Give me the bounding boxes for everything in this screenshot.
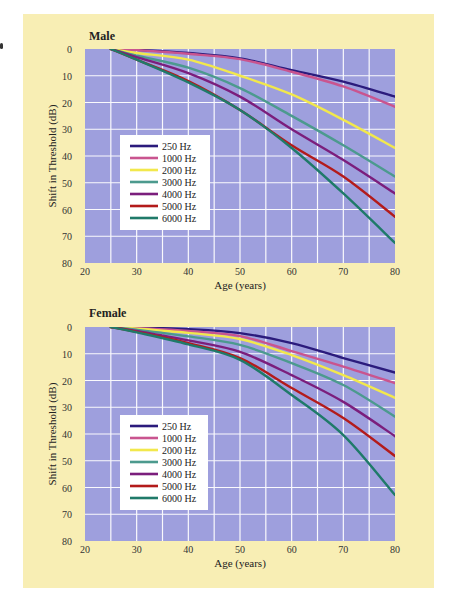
y-tick-label: 60 bbox=[62, 483, 72, 494]
x-tick-label: 80 bbox=[390, 266, 400, 277]
y-tick-label: 20 bbox=[62, 376, 72, 387]
y-tick-label: 10 bbox=[62, 349, 72, 360]
x-tick-label: 50 bbox=[235, 266, 245, 277]
x-tick-label: 20 bbox=[80, 544, 90, 555]
y-tick-label: 30 bbox=[62, 124, 72, 135]
legend-label: 4000 Hz bbox=[162, 469, 197, 480]
legend-label: 2000 Hz bbox=[162, 165, 197, 176]
legend: 250 Hz1000 Hz2000 Hz3000 Hz4000 Hz5000 H… bbox=[120, 135, 210, 230]
legend-label: 5000 Hz bbox=[162, 481, 197, 492]
y-tick-label: 50 bbox=[62, 456, 72, 467]
legend-label: 1000 Hz bbox=[162, 433, 197, 444]
legend-label: 250 Hz bbox=[162, 141, 192, 152]
legend-label: 3000 Hz bbox=[162, 177, 197, 188]
x-tick-label: 80 bbox=[390, 544, 400, 555]
x-tick-label: 60 bbox=[287, 266, 297, 277]
y-tick-label: 30 bbox=[62, 402, 72, 413]
legend: 250 Hz1000 Hz2000 Hz3000 Hz4000 Hz5000 H… bbox=[120, 415, 208, 510]
y-tick-label: 40 bbox=[62, 151, 72, 162]
y-axis-label: Shift in Threshold (dB) bbox=[46, 104, 59, 207]
hearing-threshold-figure: Male0102030405060708020304050607080Age (… bbox=[0, 0, 449, 604]
x-axis-label: Age (years) bbox=[214, 557, 266, 570]
x-tick-label: 40 bbox=[183, 544, 193, 555]
legend-label: 250 Hz bbox=[162, 421, 192, 432]
y-tick-label: 80 bbox=[62, 536, 72, 547]
legend-label: 2000 Hz bbox=[162, 445, 197, 456]
x-tick-label: 70 bbox=[338, 544, 348, 555]
legend-label: 3000 Hz bbox=[162, 457, 197, 468]
x-tick-label: 30 bbox=[132, 544, 142, 555]
y-tick-label: 20 bbox=[62, 98, 72, 109]
y-tick-label: 70 bbox=[62, 231, 72, 242]
x-tick-label: 30 bbox=[132, 266, 142, 277]
x-tick-label: 60 bbox=[287, 544, 297, 555]
y-tick-label: 50 bbox=[62, 178, 72, 189]
y-tick-label: 0 bbox=[67, 44, 72, 55]
y-tick-label: 80 bbox=[62, 258, 72, 269]
female-chart: Female0102030405060708020304050607080Age… bbox=[46, 306, 400, 570]
x-tick-label: 70 bbox=[338, 266, 348, 277]
legend-label: 5000 Hz bbox=[162, 201, 197, 212]
legend-label: 6000 Hz bbox=[162, 493, 197, 504]
legend-label: 6000 Hz bbox=[162, 213, 197, 224]
y-tick-label: 40 bbox=[62, 429, 72, 440]
x-tick-label: 50 bbox=[235, 544, 245, 555]
legend-label: 4000 Hz bbox=[162, 189, 197, 200]
y-axis-label: Shift in Threshold (dB) bbox=[46, 382, 59, 485]
x-tick-label: 20 bbox=[80, 266, 90, 277]
chart-title: Male bbox=[89, 29, 116, 43]
y-tick-label: 60 bbox=[62, 205, 72, 216]
y-tick-label: 0 bbox=[67, 322, 72, 333]
x-axis-label: Age (years) bbox=[214, 279, 266, 292]
male-chart: Male0102030405060708020304050607080Age (… bbox=[46, 29, 400, 292]
x-tick-label: 40 bbox=[183, 266, 193, 277]
y-tick-label: 10 bbox=[62, 71, 72, 82]
legend-label: 1000 Hz bbox=[162, 153, 197, 164]
chart-title: Female bbox=[89, 306, 127, 320]
y-tick-label: 70 bbox=[62, 509, 72, 520]
